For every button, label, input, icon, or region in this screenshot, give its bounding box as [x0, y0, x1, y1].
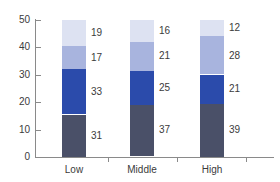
bar-segment-value-label: 33	[91, 87, 102, 97]
x-axis-label-low: Low	[44, 164, 104, 176]
bar-segment	[200, 36, 224, 74]
bar-segment	[200, 20, 224, 36]
bar-low: 19173331	[62, 0, 86, 182]
bar-segment-value-label: 21	[159, 51, 170, 61]
bar-segment	[200, 75, 224, 104]
bar-segment	[62, 20, 86, 46]
bar-segment-value-label: 16	[159, 26, 170, 36]
bar-segment	[200, 104, 224, 157]
bar-segment	[130, 42, 154, 71]
bar-middle: 16212537	[130, 0, 154, 182]
bar-segment-value-label: 21	[229, 84, 240, 94]
bar-segment-value-label: 28	[229, 51, 240, 61]
bar-segment	[130, 20, 154, 42]
stacked-bar-chart: 01020304050 191733311621253712282139 Low…	[0, 0, 280, 182]
plot-area: 191733311621253712282139	[0, 0, 280, 182]
bar-segment-value-label: 25	[159, 83, 170, 93]
bar-segment	[130, 105, 154, 156]
bar-segment-value-label: 31	[91, 131, 102, 141]
bar-segment	[62, 69, 86, 114]
bar-segment	[130, 71, 154, 105]
bar-segment-value-label: 19	[91, 28, 102, 38]
bar-segment	[62, 115, 86, 157]
x-axis-label-middle: Middle	[112, 164, 172, 176]
bar-segment-value-label: 17	[91, 53, 102, 63]
x-axis-label-high: High	[182, 164, 242, 176]
bar-high: 12282139	[200, 0, 224, 182]
bar-segment	[62, 46, 86, 69]
bar-segment-value-label: 39	[229, 125, 240, 135]
bar-segment-value-label: 37	[159, 125, 170, 135]
bar-segment-value-label: 12	[229, 23, 240, 33]
